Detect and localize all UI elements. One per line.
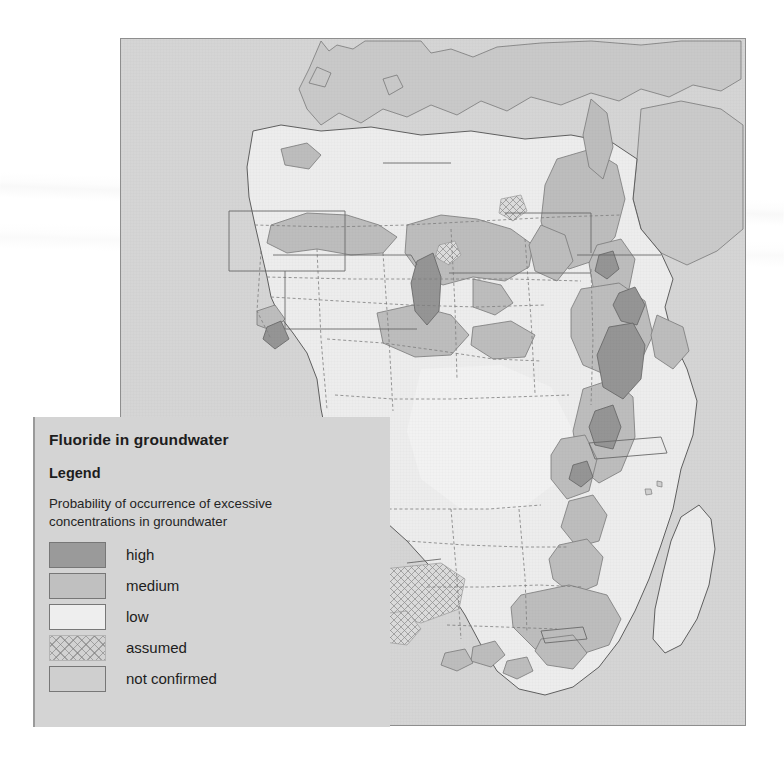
legend-description: Probability of occurrence of excessive c… xyxy=(49,495,321,530)
legend-item-assumed[interactable]: assumed xyxy=(49,632,390,663)
swatch-low-icon xyxy=(49,604,106,630)
legend-item-not-confirmed[interactable]: not confirmed xyxy=(49,663,390,694)
legend-item-low[interactable]: low xyxy=(49,601,390,632)
legend-label-assumed: assumed xyxy=(126,639,187,656)
legend-label-low: low xyxy=(126,608,149,625)
map-legend-panel: Fluoride in groundwater Legend Probabili… xyxy=(33,417,390,727)
legend-title: Fluoride in groundwater xyxy=(49,431,390,449)
legend-item-medium[interactable]: medium xyxy=(49,570,390,601)
legend-item-high[interactable]: high xyxy=(49,539,390,570)
legend-label-medium: medium xyxy=(126,577,179,594)
legend-heading: Legend xyxy=(49,465,390,481)
legend-label-not-confirmed: not confirmed xyxy=(126,670,217,687)
legend-items: high medium low assumed not confirmed xyxy=(49,539,390,694)
swatch-assumed-icon xyxy=(49,635,106,661)
swatch-high-icon xyxy=(49,542,106,568)
scanned-page: Fluoride in groundwater Legend Probabili… xyxy=(0,0,784,758)
swatch-not-confirmed-icon xyxy=(49,666,106,692)
legend-label-high: high xyxy=(126,546,154,563)
swatch-medium-icon xyxy=(49,573,106,599)
